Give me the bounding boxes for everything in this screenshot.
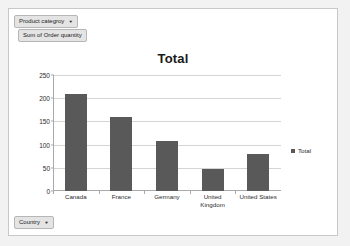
pivot-value-button-label: Sum of Order quantity xyxy=(23,32,82,39)
pivot-field-button-product-category[interactable]: Product categroy ▼ xyxy=(14,15,78,28)
bar[interactable] xyxy=(110,117,132,191)
plot-area: 050100150200250 xyxy=(53,75,281,191)
chart-title: Total xyxy=(9,51,337,66)
bar[interactable] xyxy=(202,169,224,191)
chevron-down-icon: ▼ xyxy=(68,19,73,25)
bar-slot xyxy=(144,75,190,191)
bar-slot xyxy=(53,75,99,191)
y-axis-tick-label: 50 xyxy=(43,164,50,171)
y-axis-tick-label: 150 xyxy=(39,118,50,125)
pivot-axis-button-country[interactable]: Country ▼ xyxy=(14,216,54,229)
bar-slot xyxy=(235,75,281,191)
bar[interactable] xyxy=(156,141,178,191)
x-axis-label: United Kingdom xyxy=(190,193,236,208)
chart-legend: Total xyxy=(291,147,311,154)
x-axis-labels: CanadaFranceGermanyUnited KingdomUnited … xyxy=(53,193,281,208)
legend-swatch-icon xyxy=(291,149,295,153)
bar[interactable] xyxy=(247,154,269,191)
pivot-axis-button-country-label: Country xyxy=(19,219,40,226)
bar[interactable] xyxy=(65,94,87,191)
bar-slot xyxy=(190,75,236,191)
x-axis-label: Germany xyxy=(144,193,190,208)
y-axis-tick-label: 200 xyxy=(39,95,50,102)
pivotchart-frame: Product categroy ▼ Sum of Order quantity… xyxy=(8,8,338,236)
x-axis-label: United States xyxy=(235,193,281,208)
x-axis-label: France xyxy=(99,193,145,208)
pivot-field-button-product-category-label: Product categroy xyxy=(19,18,64,25)
legend-label-total: Total xyxy=(298,147,311,154)
bar-slot xyxy=(99,75,145,191)
y-axis-tick-label: 0 xyxy=(46,188,50,195)
chevron-down-icon: ▼ xyxy=(44,220,49,226)
y-axis-tick-label: 100 xyxy=(39,141,50,148)
pivot-value-button-sum-of-order-quantity[interactable]: Sum of Order quantity xyxy=(18,29,87,42)
x-axis-label: Canada xyxy=(53,193,99,208)
bar-series-total xyxy=(53,75,281,191)
y-axis-tick-label: 250 xyxy=(39,72,50,79)
